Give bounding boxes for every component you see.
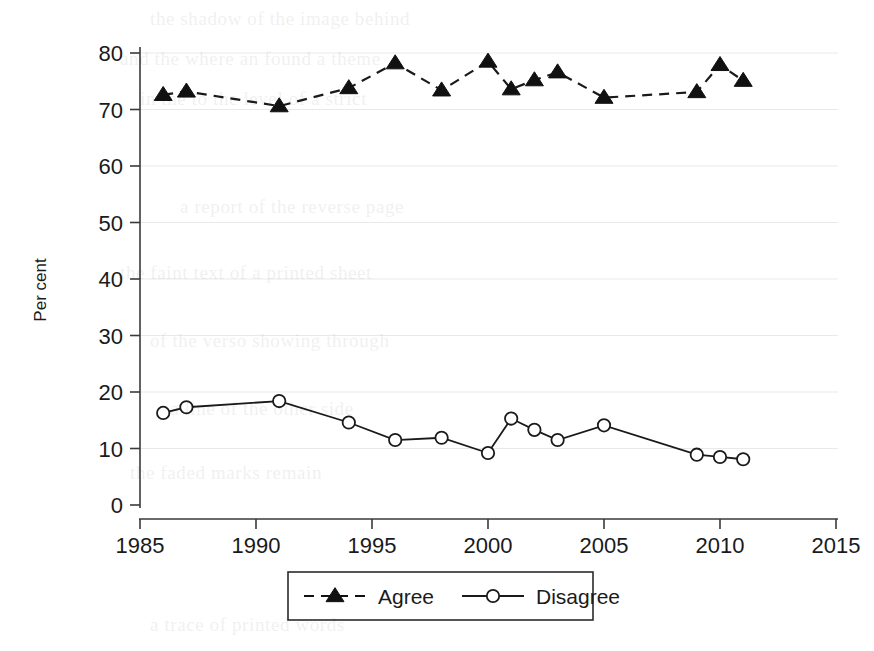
data-point-marker [528,424,540,436]
data-point-marker [691,449,703,461]
data-point-marker [549,64,567,78]
data-point-marker [737,453,749,465]
series-disagree [157,395,749,466]
data-point-marker [714,451,726,463]
y-tick-label: 60 [99,154,123,179]
x-tick-label: 1995 [348,533,397,558]
data-point-marker [273,395,285,407]
data-point-marker [433,82,451,96]
x-tick-label: 2000 [464,533,513,558]
series-agree [154,53,752,112]
data-series-group [154,53,752,465]
data-point-marker [435,432,447,444]
chart-figure: the shadow of the image behindand the wh… [0,0,874,651]
data-point-marker [389,434,401,446]
line-chart: 01020304050607080 1985199019952000200520… [0,0,874,651]
data-point-marker [598,419,610,431]
x-tick-label: 2005 [580,533,629,558]
y-tick-label: 0 [111,493,123,518]
y-tick-label: 20 [99,380,123,405]
gridlines-group [140,53,838,449]
y-tick-label: 70 [99,98,123,123]
x-tick-label: 2010 [696,533,745,558]
data-point-marker [479,53,497,67]
x-tick-label: 2015 [812,533,861,558]
y-tick-label: 10 [99,437,123,462]
chart-legend: AgreeDisagree [288,572,620,620]
series-line-agree [163,61,743,106]
data-point-marker [340,80,358,94]
data-point-marker [688,84,706,98]
y-tick-label: 30 [99,324,123,349]
legend-marker-open-circle [487,590,499,602]
data-point-marker [386,55,404,69]
legend-label: Disagree [536,585,620,608]
data-point-marker [505,412,517,424]
data-point-marker [177,83,195,97]
data-point-marker [157,407,169,419]
data-point-marker [711,56,729,70]
y-tick-label: 40 [99,267,123,292]
y-axis-title: Per cent [31,258,50,322]
x-tick-label: 1985 [116,533,165,558]
y-tick-label: 80 [99,41,123,66]
y-tick-label: 50 [99,211,123,236]
y-axis: 01020304050607080 [99,41,140,518]
x-axis: 1985199019952000200520102015 [116,519,861,558]
data-point-marker [734,72,752,86]
series-line-disagree [163,401,743,459]
data-point-marker [482,447,494,459]
x-tick-label: 1990 [232,533,281,558]
data-point-marker [551,434,563,446]
data-point-marker [180,401,192,413]
data-point-marker [343,416,355,428]
legend-label: Agree [378,585,434,608]
